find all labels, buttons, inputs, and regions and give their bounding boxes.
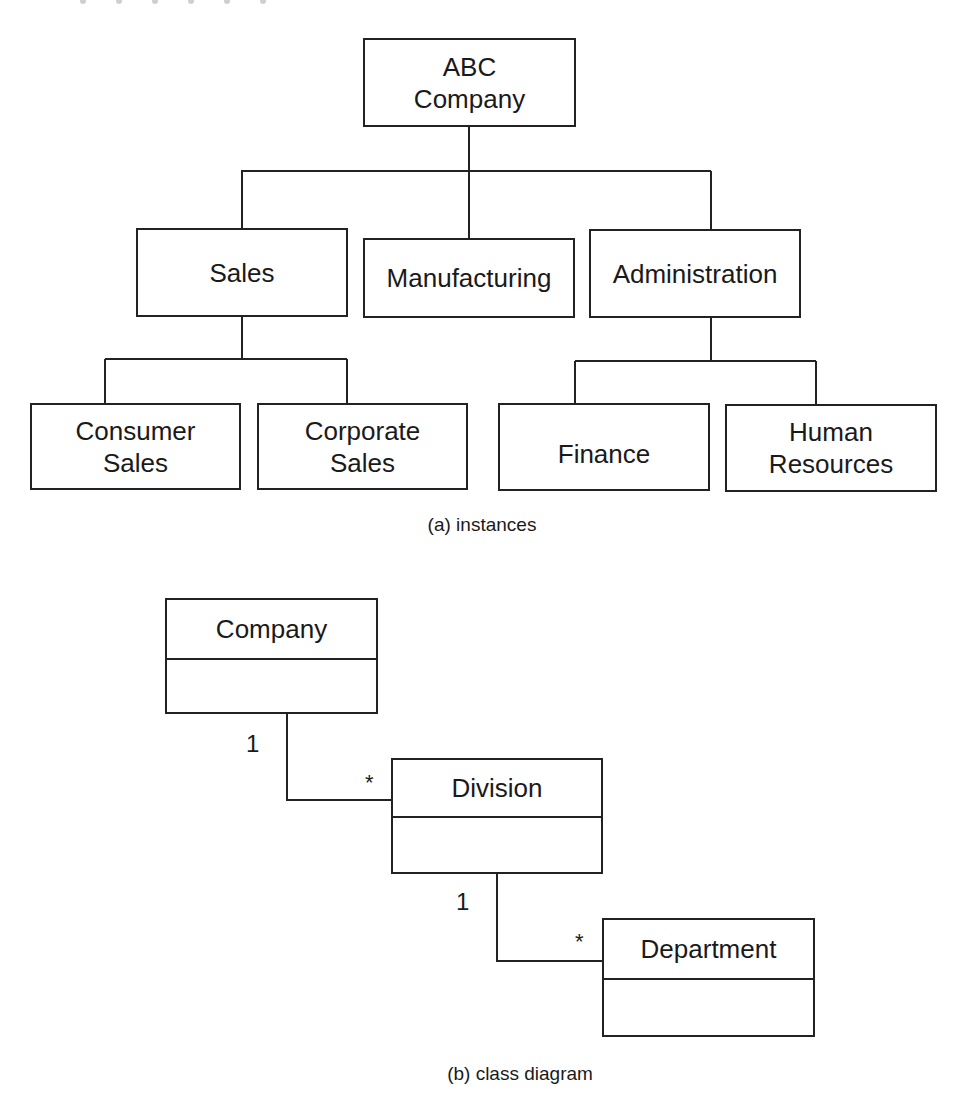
caption-class-diagram: (b) class diagram [400, 1063, 640, 1085]
class-name-company: Company [167, 600, 376, 660]
division-node-manufacturing: Manufacturing [363, 238, 575, 318]
division-node-sales: Sales [136, 228, 348, 317]
department-node-human-resources: Human Resources [725, 404, 937, 492]
department-node-corporate-sales: Corporate Sales [257, 403, 468, 490]
department-node-consumer-sales: Consumer Sales [30, 403, 241, 490]
class-name-department: Department [604, 920, 813, 980]
company-division-association [287, 713, 391, 800]
node-label: Administration [613, 258, 778, 290]
node-label: Human Resources [769, 416, 893, 480]
root-node-abc-company: ABC Company [363, 38, 576, 127]
node-label: Sales [209, 257, 274, 289]
class-attributes-compartment [393, 818, 601, 872]
class-name-division: Division [393, 760, 601, 818]
multiplicity-division-many: * [365, 770, 374, 796]
class-box-company: Company [165, 598, 378, 714]
department-node-finance: Finance [498, 403, 710, 491]
class-box-department: Department [602, 918, 815, 1037]
connector-lines [0, 0, 968, 1100]
caption-instances: (a) instances [382, 514, 582, 536]
node-label: Manufacturing [387, 262, 552, 294]
multiplicity-company-one: 1 [246, 730, 259, 758]
node-label: Finance [558, 438, 651, 470]
division-department-association [497, 873, 602, 961]
class-attributes-compartment [604, 980, 813, 1035]
node-label: Consumer Sales [76, 415, 196, 479]
class-box-division: Division [391, 758, 603, 874]
node-label: ABC Company [414, 51, 525, 115]
division-node-administration: Administration [589, 229, 801, 318]
multiplicity-division-one: 1 [456, 888, 469, 916]
class-attributes-compartment [167, 660, 376, 712]
node-label: Corporate Sales [305, 415, 421, 479]
multiplicity-department-many: * [575, 929, 584, 955]
org-diagram-canvas: ABC Company Sales Manufacturing Administ… [0, 0, 968, 1100]
